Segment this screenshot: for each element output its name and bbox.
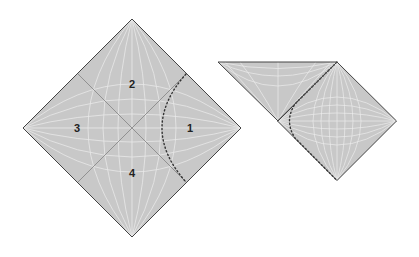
region-label-3: 3 (74, 122, 80, 134)
region-label-1: 1 (187, 122, 193, 134)
region-label-2: 2 (129, 78, 135, 90)
penrose-figure: 1 2 3 4 (0, 0, 419, 257)
region-label-4: 4 (129, 167, 136, 179)
left-penrose-diagram: 1 2 3 4 (23, 19, 241, 237)
right-penrose-diagram (218, 62, 397, 181)
